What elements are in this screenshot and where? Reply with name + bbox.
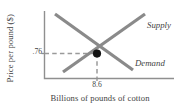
y-axis-tick-label: .76 [26,48,42,56]
demand-curve [55,14,133,70]
x-axis-tick-label: 8.6 [85,81,109,89]
demand-curve-label: Demand [135,59,165,68]
y-axis-label: Price per pound ($) [6,11,15,85]
supply-demand-chart: Price per pound ($) Billions of pounds o… [0,0,181,108]
supply-curve-label: Supply [147,21,171,30]
equilibrium-point [93,49,101,57]
x-axis-label: Billions of pounds of cotton [22,94,178,103]
supply-curve [63,14,145,72]
